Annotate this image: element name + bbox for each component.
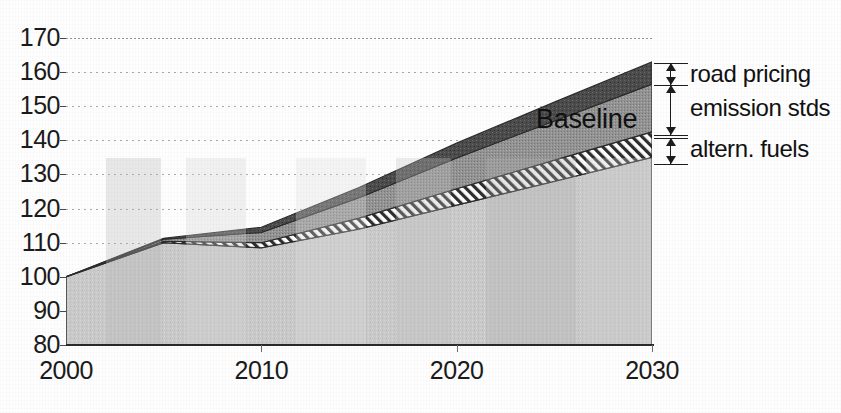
annotation-road-pricing: road pricing xyxy=(690,62,811,86)
y-tick-label-110: 110 xyxy=(0,230,60,255)
y-tick-mark-100 xyxy=(60,277,66,278)
y-tick-label-120: 120 xyxy=(0,196,60,221)
scan-band-0 xyxy=(106,158,161,345)
stacked-area-series xyxy=(66,38,652,345)
y-tick-label-150: 150 xyxy=(0,93,60,118)
scan-band-3 xyxy=(396,158,451,345)
y-tick-label-130: 130 xyxy=(0,161,60,186)
x-axis-line xyxy=(66,344,654,346)
x-tick-label-2000: 2000 xyxy=(11,358,121,383)
y-tick-mark-140 xyxy=(60,140,66,141)
scan-band-5 xyxy=(586,158,652,345)
x-tick-mark-2020 xyxy=(457,345,458,352)
baseline-annotation: Baseline xyxy=(536,104,637,135)
plot-area: Baseline xyxy=(66,38,652,345)
x-tick-label-2010: 2010 xyxy=(206,358,316,383)
y-tick-label-140: 140 xyxy=(0,127,60,152)
annotation-altern-fuels: altern. fuels xyxy=(690,137,809,161)
x-tick-label-2020: 2020 xyxy=(402,358,512,383)
y-tick-label-160: 160 xyxy=(0,59,60,84)
scan-band-1 xyxy=(186,158,246,345)
x-tick-mark-2010 xyxy=(261,345,262,352)
chart-page: Baseline 8090100110120130140150160170 20… xyxy=(0,0,841,413)
y-tick-mark-110 xyxy=(60,243,66,244)
annotation-emission-stds: emission stds xyxy=(690,96,830,120)
y-tick-mark-160 xyxy=(60,72,66,73)
x-tick-label-2030: 2030 xyxy=(597,358,707,383)
scan-band-2 xyxy=(296,158,366,345)
y-tick-label-170: 170 xyxy=(0,25,60,50)
y-tick-mark-120 xyxy=(60,209,66,210)
scan-band-4 xyxy=(486,158,576,345)
band-annotations: road pricing emission stds altern. fuels xyxy=(652,38,841,198)
y-tick-label-80: 80 xyxy=(0,332,60,357)
y-tick-label-100: 100 xyxy=(0,264,60,289)
x-tick-mark-2030 xyxy=(652,345,653,352)
y-tick-label-90: 90 xyxy=(0,298,60,323)
y-tick-mark-90 xyxy=(60,311,66,312)
y-tick-mark-150 xyxy=(60,106,66,107)
y-tick-mark-170 xyxy=(60,38,66,39)
y-tick-mark-130 xyxy=(60,174,66,175)
